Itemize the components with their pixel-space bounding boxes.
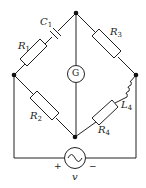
label-r4: R4 <box>98 125 110 137</box>
node-right <box>134 73 139 78</box>
wire-top-c1 <box>58 13 76 31</box>
label-r2: R2 <box>30 111 42 123</box>
wire-r1-left <box>14 63 26 75</box>
label-v: v <box>72 172 78 182</box>
source-plus-sign: + <box>54 162 62 171</box>
wire-left-r2 <box>14 75 33 94</box>
node-bottom <box>73 135 78 140</box>
label-g: G <box>72 69 79 78</box>
resistor-r4 <box>92 100 118 125</box>
wire-r3-right <box>118 57 136 75</box>
wire-r4-bottom <box>75 122 96 137</box>
node-top <box>74 11 79 16</box>
label-c1: C1 <box>40 17 52 29</box>
node-left <box>12 73 17 78</box>
circuit-diagram <box>0 0 146 188</box>
label-r3: R3 <box>110 27 122 39</box>
source-minus-sign: − <box>89 162 97 171</box>
label-r1: R1 <box>18 41 30 53</box>
label-l4: L4 <box>121 100 132 112</box>
wire-top-r3 <box>76 13 95 32</box>
wire-r2-bottom <box>56 118 75 137</box>
